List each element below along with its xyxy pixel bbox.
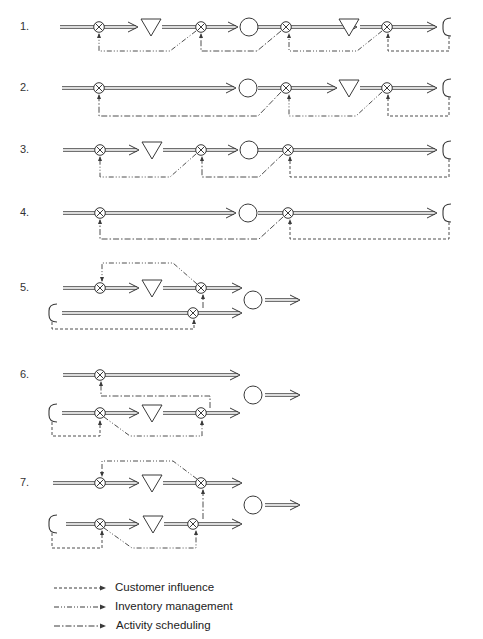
- legend-arrow-icon: [100, 624, 106, 629]
- arrow-head-icon: [228, 22, 238, 32]
- arrow-head-icon: [228, 145, 238, 155]
- inventory-triangle-icon: [339, 80, 359, 97]
- control-link-dash-dot-dot: [100, 154, 196, 177]
- arrow-head-icon: [226, 208, 236, 218]
- customer-contact-circle-icon: [244, 291, 262, 309]
- control-link-dash-dot-dot: [104, 528, 196, 548]
- arrow-head-icon: [129, 519, 139, 529]
- control-link-dashed: [388, 95, 449, 116]
- control-arrow-up-icon: [386, 33, 390, 38]
- arrow-head-icon: [427, 145, 437, 155]
- control-arrow-up-icon: [98, 156, 102, 161]
- control-arrow-up-icon: [192, 319, 196, 324]
- control-arrow-up-icon: [200, 156, 204, 161]
- arrow-head-icon: [128, 22, 138, 32]
- control-link-dashed: [52, 531, 102, 548]
- arrow-head-icon: [232, 519, 242, 529]
- control-arrow-up-icon: [99, 381, 103, 386]
- control-link-dashed: [52, 421, 100, 436]
- inventory-triangle-icon: [143, 516, 163, 533]
- customer-bracket-icon: [49, 404, 57, 422]
- control-link-dash-dot: [202, 154, 283, 177]
- customer-bracket-icon: [49, 515, 57, 533]
- control-arrow-up-icon: [201, 294, 205, 299]
- customer-contact-circle-icon: [244, 386, 262, 404]
- customer-bracket-icon: [443, 18, 451, 36]
- arrow-head-icon: [290, 295, 300, 305]
- inventory-triangle-icon: [142, 475, 162, 492]
- flow-diagram: [0, 0, 483, 639]
- control-arrow-down-icon: [100, 277, 104, 282]
- customer-bracket-icon: [443, 141, 451, 159]
- arrow-head-icon: [232, 308, 242, 318]
- customer-contact-circle-icon: [239, 79, 257, 97]
- arrow-head-icon: [226, 83, 236, 93]
- arrow-head-icon: [232, 283, 242, 293]
- customer-bracket-icon: [443, 79, 451, 97]
- control-link-dashed: [290, 220, 449, 239]
- arrow-head-icon: [129, 145, 139, 155]
- legend-arrow-icon: [100, 586, 106, 591]
- inventory-triangle-icon: [142, 405, 162, 422]
- inventory-triangle-icon: [141, 19, 161, 36]
- control-arrow-up-icon: [97, 94, 101, 99]
- customer-contact-circle-icon: [240, 141, 258, 159]
- control-arrow-up-icon: [288, 156, 292, 161]
- control-arrow-up-icon: [98, 420, 102, 425]
- legend-arrow-icon: [100, 605, 106, 610]
- arrow-head-icon: [290, 500, 300, 510]
- control-link-dash-dot-dot: [289, 92, 382, 116]
- arrow-head-icon: [230, 408, 240, 418]
- control-link-dashed: [388, 34, 449, 51]
- control-arrow-up-icon: [200, 420, 204, 425]
- control-link-dash-dot: [100, 217, 283, 239]
- control-link-dash-dot: [101, 382, 210, 408]
- inventory-triangle-icon: [142, 142, 162, 159]
- arrow-head-icon: [327, 83, 337, 93]
- control-arrow-up-icon: [287, 33, 291, 38]
- control-arrow-up-icon: [98, 219, 102, 224]
- control-link-dash-dot: [201, 31, 281, 51]
- customer-bracket-icon: [443, 204, 451, 222]
- arrow-head-icon: [290, 390, 300, 400]
- control-link-dash-dot-dot: [289, 31, 382, 51]
- arrow-head-icon: [230, 370, 240, 380]
- control-arrow-up-icon: [288, 219, 292, 224]
- inventory-triangle-icon: [142, 280, 162, 297]
- control-link-dashed: [52, 320, 194, 329]
- arrow-head-icon: [232, 478, 242, 488]
- arrow-head-icon: [129, 283, 139, 293]
- control-arrow-up-icon: [100, 530, 104, 535]
- control-arrow-down-icon: [100, 472, 104, 477]
- control-arrow-up-icon: [386, 94, 390, 99]
- arrow-head-icon: [427, 22, 437, 32]
- customer-bracket-icon: [49, 304, 57, 322]
- control-arrow-up-icon: [194, 530, 198, 535]
- control-arrow-up-icon: [199, 33, 203, 38]
- control-arrow-up-icon: [201, 489, 205, 494]
- arrow-head-icon: [427, 83, 437, 93]
- control-link-dashed: [290, 157, 449, 177]
- control-arrow-up-icon: [97, 33, 101, 38]
- control-arrow-up-icon: [287, 94, 291, 99]
- arrow-head-icon: [129, 478, 139, 488]
- customer-contact-circle-icon: [239, 204, 257, 222]
- control-link-dash-dot-dot: [99, 31, 196, 51]
- customer-contact-circle-icon: [240, 18, 258, 36]
- arrow-head-icon: [129, 408, 139, 418]
- customer-contact-circle-icon: [244, 496, 262, 514]
- arrow-head-icon: [427, 208, 437, 218]
